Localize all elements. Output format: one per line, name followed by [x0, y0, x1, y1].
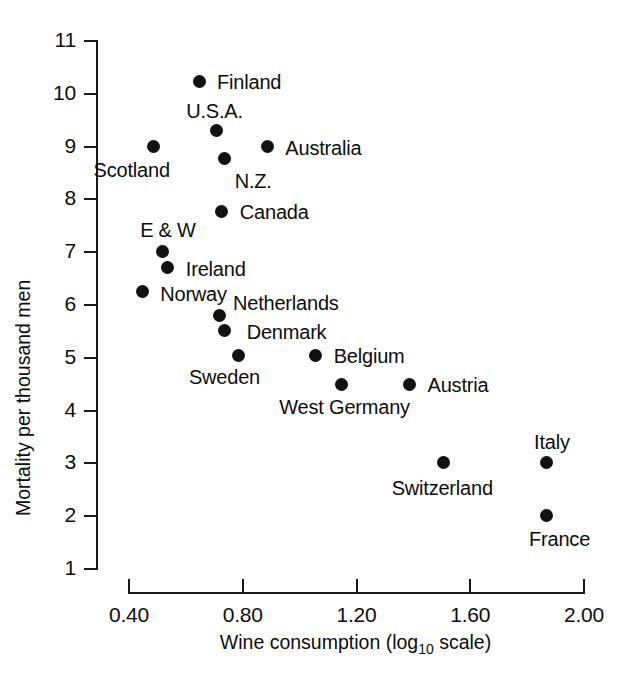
data-point-label: France — [529, 529, 590, 549]
data-point — [215, 205, 228, 218]
y-axis-tick-label: 1 — [32, 557, 76, 578]
y-axis-tick-label: 10 — [32, 82, 76, 103]
data-point-label: Australia — [285, 138, 361, 158]
x-axis-title-post: scale) — [434, 631, 491, 653]
y-axis-tick — [84, 568, 96, 570]
y-axis-tick — [84, 304, 96, 306]
scatter-plot-wine-mortality: 11109876543210.400.801.201.602.00Mortali… — [0, 0, 626, 674]
data-point — [156, 245, 169, 258]
x-axis-tick-label: 0.80 — [197, 604, 289, 625]
y-axis-tick-label: 7 — [32, 240, 76, 261]
data-point — [403, 378, 416, 391]
y-axis-tick-label: 8 — [32, 187, 76, 208]
x-axis-tick — [356, 579, 358, 592]
x-axis-tick-label: 1.60 — [424, 604, 516, 625]
x-axis-tick-label: 1.20 — [311, 604, 403, 625]
data-point-label: Austria — [428, 375, 489, 395]
x-axis-title-subscript: 10 — [418, 641, 434, 657]
y-axis-tick — [84, 198, 96, 200]
data-point — [437, 456, 450, 469]
y-axis-tick-label: 11 — [32, 29, 76, 50]
data-point-label: Scotland — [94, 160, 170, 180]
data-point-label: Denmark — [247, 322, 327, 342]
data-point-label: Netherlands — [233, 293, 339, 313]
data-point — [218, 152, 231, 165]
x-axis-tick — [469, 579, 471, 592]
data-point — [261, 140, 274, 153]
y-axis-tick — [84, 40, 96, 42]
data-point — [335, 378, 348, 391]
data-point — [147, 140, 160, 153]
data-point-label: Belgium — [334, 346, 405, 366]
data-point — [540, 509, 553, 522]
y-axis-tick-label: 4 — [32, 399, 76, 420]
data-point-label: Norway — [160, 284, 227, 304]
y-axis-tick-label: 3 — [32, 451, 76, 472]
data-point-label: Switzerland — [392, 478, 493, 498]
y-axis-tick — [84, 515, 96, 517]
data-point — [161, 261, 174, 274]
data-point-label: Canada — [240, 202, 309, 222]
x-axis-title: Wine consumption (log10 scale) — [108, 633, 603, 659]
data-point — [540, 456, 553, 469]
y-axis-tick — [84, 251, 96, 253]
x-axis-tick — [242, 579, 244, 592]
y-axis-title: Mortality per thousand men — [14, 280, 34, 516]
data-point-label: U.S.A. — [186, 101, 243, 121]
data-point-label: N.Z. — [235, 171, 272, 191]
data-point-label: Ireland — [186, 259, 246, 279]
y-axis-tick-label: 9 — [32, 135, 76, 156]
data-point — [210, 124, 223, 137]
y-axis-tick — [84, 146, 96, 148]
data-point — [309, 349, 322, 362]
data-point-label: Sweden — [189, 367, 260, 387]
y-axis-tick — [84, 410, 96, 412]
data-point — [213, 309, 226, 322]
x-axis-tick — [583, 579, 585, 592]
data-point — [193, 75, 206, 88]
y-axis-tick — [84, 357, 96, 359]
data-point-label: Italy — [534, 432, 570, 452]
y-axis-tick-label: 5 — [32, 346, 76, 367]
data-point-label: West Germany — [279, 397, 410, 417]
y-axis-tick — [84, 462, 96, 464]
data-point — [136, 285, 149, 298]
data-point — [232, 349, 245, 362]
data-point — [218, 324, 231, 337]
x-axis-line — [128, 592, 585, 594]
x-axis-tick — [128, 579, 130, 592]
y-axis-tick — [84, 93, 96, 95]
x-axis-title-pre: Wine consumption (log — [220, 631, 418, 653]
data-point-label: Finland — [217, 72, 281, 92]
x-axis-tick-label: 2.00 — [538, 604, 626, 625]
y-axis-line — [96, 40, 98, 570]
y-axis-tick-label: 2 — [32, 504, 76, 525]
x-axis-tick-label: 0.40 — [83, 604, 175, 625]
data-point-label: E & W — [140, 220, 196, 240]
y-axis-tick-label: 6 — [32, 293, 76, 314]
